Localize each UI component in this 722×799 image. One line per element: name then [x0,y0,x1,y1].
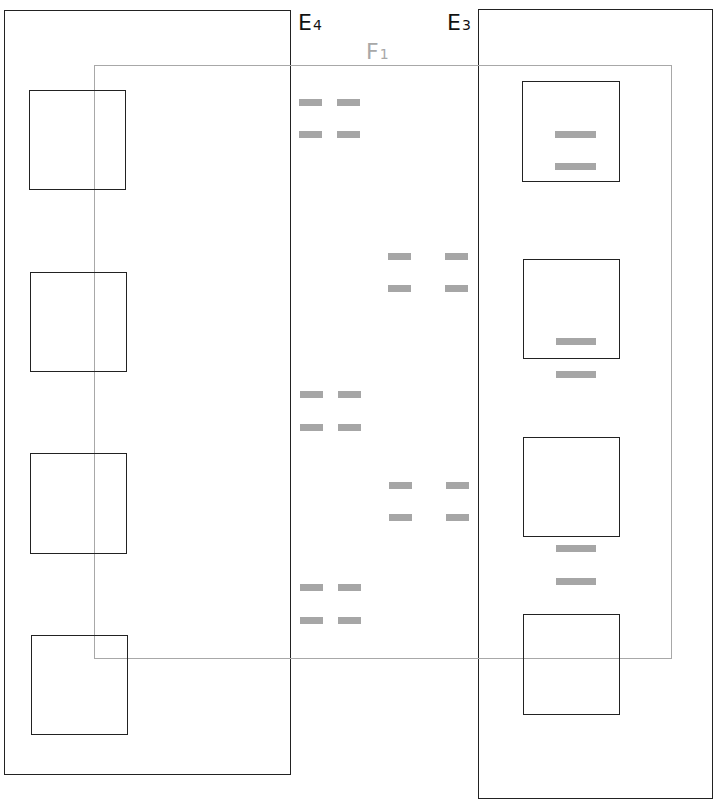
right-dash-mark [556,338,596,345]
center-dash-mark [445,285,468,292]
label-e4: E4 [298,12,322,36]
center-dash-mark [338,391,361,398]
label-e3-main: E [447,10,461,35]
center-dash-mark [337,99,360,106]
center-dash-mark [300,424,323,431]
right-dash-mark [556,371,596,378]
center-dash-mark [299,99,322,106]
center-dash-mark [389,514,412,521]
center-dash-mark [388,253,411,260]
right-dash-mark [556,578,596,585]
left-square [30,453,127,554]
left-square [31,635,128,735]
center-dash-mark [299,131,322,138]
right-square [523,437,620,537]
label-e3-sub: 3 [462,17,471,33]
center-dash-mark [300,391,323,398]
center-dash-mark [338,584,361,591]
right-dash-mark [556,545,596,552]
label-f1-sub: 1 [380,46,389,62]
left-square [29,90,126,190]
label-f1: F1 [366,41,389,65]
center-dash-mark [446,514,469,521]
center-dash-mark [445,253,468,260]
label-f1-main: F [366,39,379,64]
label-e4-main: E [298,10,312,35]
right-dash-mark [555,131,596,138]
center-dash-mark [388,285,411,292]
center-dash-mark [338,617,361,624]
center-dash-mark [446,482,469,489]
center-dash-mark [300,617,323,624]
left-square [30,272,127,372]
center-dash-mark [389,482,412,489]
right-square [523,614,620,715]
center-dash-mark [300,584,323,591]
center-dash-mark [338,424,361,431]
label-e4-sub: 4 [313,17,322,33]
label-e3: E3 [447,12,471,36]
right-dash-mark [555,163,596,170]
center-dash-mark [337,131,360,138]
